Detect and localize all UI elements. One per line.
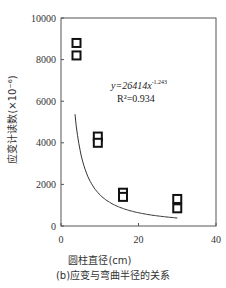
fit-curve bbox=[75, 114, 177, 218]
strain-vs-diameter-chart: 020004000600080001000002040 y=26414x-1.2… bbox=[0, 0, 226, 288]
y-tick-label: 10000 bbox=[31, 13, 56, 24]
plot-axes: 020004000600080001000002040 bbox=[31, 13, 221, 246]
data-points bbox=[73, 39, 182, 212]
data-point-marker bbox=[94, 139, 102, 147]
y-tick-label: 6000 bbox=[36, 96, 56, 107]
x-axis-label: 圆柱直径(cm) bbox=[30, 252, 170, 267]
x-tick-label: 40 bbox=[211, 234, 221, 245]
y-axis-label: 应变计读数(×10⁻⁶) bbox=[4, 65, 19, 175]
x-tick-label: 20 bbox=[134, 234, 144, 245]
r-squared: R²=0.934 bbox=[117, 93, 155, 104]
y-tick-label: 8000 bbox=[36, 54, 56, 65]
data-point-marker bbox=[173, 204, 181, 212]
data-point-marker bbox=[73, 39, 81, 47]
y-tick-label: 4000 bbox=[36, 137, 56, 148]
equation-annotation: y=26414x-1.243 R²=0.934 bbox=[110, 79, 167, 104]
y-tick-label: 0 bbox=[51, 221, 56, 232]
data-point-marker bbox=[119, 193, 127, 201]
plot-frame bbox=[61, 18, 216, 226]
y-tick-label: 2000 bbox=[36, 179, 56, 190]
x-tick-label: 0 bbox=[59, 234, 64, 245]
data-point-marker bbox=[73, 51, 81, 59]
figure-caption: (b)应变与弯曲半径的关系 bbox=[28, 267, 198, 282]
fit-equation: y=26414x-1.243 bbox=[110, 79, 167, 91]
data-point-marker bbox=[173, 195, 181, 203]
